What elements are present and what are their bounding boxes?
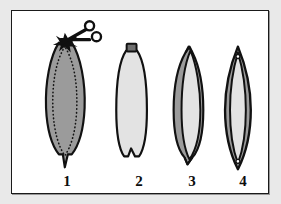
step-3-figure — [174, 47, 204, 165]
step-1-label: 1 — [54, 173, 80, 189]
step-4-bottom-hole — [236, 159, 240, 163]
step-3-label: 3 — [179, 173, 205, 189]
scissors-ring-lower — [92, 32, 101, 41]
scissors-pivot — [73, 37, 77, 41]
step-4-top-hole — [236, 55, 240, 59]
step-2-figure — [116, 44, 147, 157]
step-2-top-tab — [127, 44, 137, 52]
figure-panel: 1 2 3 4 — [0, 0, 281, 204]
step-1-tissue-outline — [46, 43, 85, 168]
step-4-label: 4 — [230, 173, 256, 189]
step-1-figure — [46, 21, 101, 167]
figure-illustration — [12, 11, 268, 193]
scissors-ring-upper — [85, 21, 94, 30]
step-2-flap-outline — [116, 51, 147, 157]
scissors-icon — [61, 21, 101, 43]
step-4-figure — [225, 47, 251, 170]
figure-frame-border: 1 2 3 4 — [11, 10, 269, 194]
step-2-label: 2 — [126, 173, 152, 189]
